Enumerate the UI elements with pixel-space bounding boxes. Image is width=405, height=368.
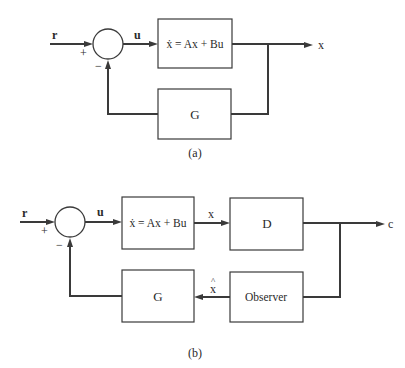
caption-b: (b)	[188, 346, 202, 360]
feedback-return-a	[108, 66, 158, 114]
summing-junction-b	[55, 207, 85, 237]
output-matrix-label-b: D	[262, 216, 271, 231]
caption-a: (a)	[188, 146, 201, 160]
input-label-b: r	[22, 206, 28, 220]
arrow-icon	[113, 219, 122, 225]
diagram-a: r + − u ẋ = Ax + Bu x G (a)	[50, 19, 324, 160]
plus-sign-b: +	[41, 224, 48, 238]
diagram-b: r + − u ẋ = Ax + Bu x D c Observer ^ x	[20, 197, 393, 360]
arrow-icon	[105, 60, 111, 69]
arrow-icon	[221, 220, 230, 226]
arrow-icon	[304, 42, 313, 48]
arrow-icon	[149, 41, 158, 47]
feedback-gain-label-b: G	[153, 289, 162, 304]
state-label-b: x	[208, 207, 214, 221]
control-label-a: u	[134, 28, 141, 42]
minus-sign-b: −	[56, 238, 63, 252]
block-diagram-canvas: r + − u ẋ = Ax + Bu x G (a) r + −	[0, 0, 405, 368]
arrow-icon	[67, 238, 73, 247]
output-label-b: c	[388, 217, 393, 231]
observer-label-b: Observer	[245, 291, 287, 303]
output-label-a: x	[318, 38, 324, 52]
summing-junction-a	[93, 29, 123, 59]
plant-equation-a: ẋ = Ax + Bu	[166, 38, 223, 50]
feedback-gain-label-a: G	[190, 107, 199, 122]
observer-takeoff-b	[303, 223, 340, 297]
minus-sign-a: −	[95, 59, 102, 73]
feedback-takeoff-a	[231, 44, 268, 114]
control-label-b: u	[97, 205, 104, 219]
plus-sign-a: +	[80, 46, 87, 60]
arrow-icon	[194, 294, 203, 300]
plant-equation-b: ẋ = Ax + Bu	[129, 217, 186, 229]
estimate-label-b: x	[210, 282, 216, 296]
input-label-a: r	[52, 28, 58, 42]
arrow-icon	[376, 221, 385, 227]
feedback-return-b	[70, 244, 122, 296]
